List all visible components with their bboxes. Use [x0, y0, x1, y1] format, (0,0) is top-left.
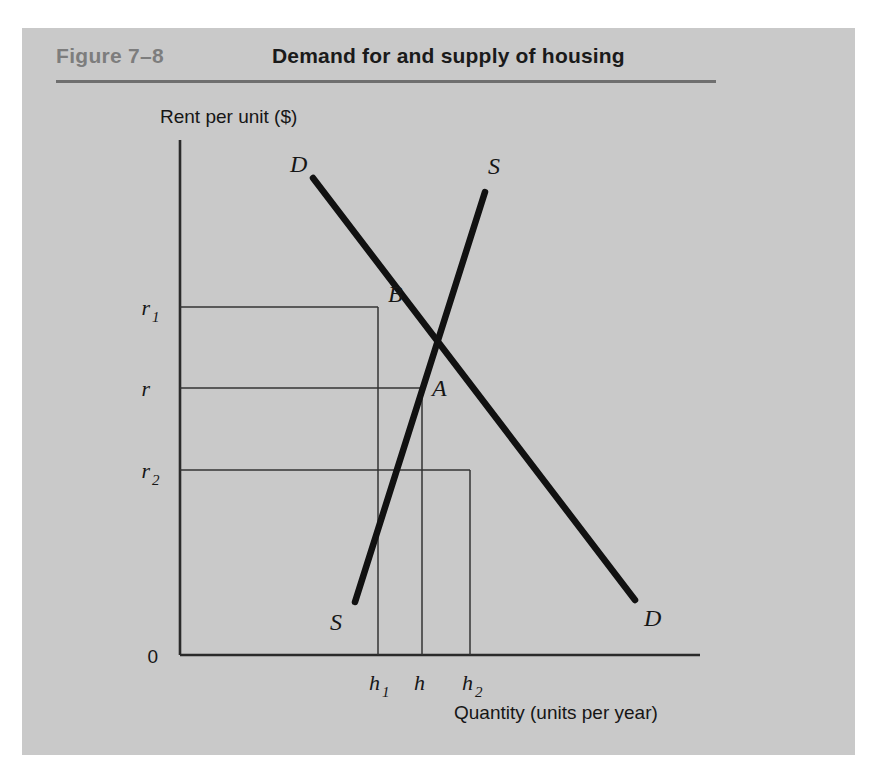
x-tick-h2-sub: 2 [475, 684, 483, 700]
y-tick-r1-sub: 1 [152, 309, 160, 325]
point-label-b: B [388, 281, 403, 307]
y-tick-label-r1: r 1 [141, 295, 159, 325]
y-tick-r-base: r [141, 376, 150, 401]
x-tick-h1-base: h [369, 670, 380, 695]
y-tick-label-r: r [141, 376, 150, 401]
supply-curve-label-top: S [488, 153, 500, 179]
demand-curve [313, 178, 635, 600]
y-axis-label: Rent per unit ($) [160, 106, 297, 127]
supply-curve-label-bottom: S [330, 609, 342, 635]
x-tick-h-base: h [414, 670, 425, 695]
x-tick-h2-base: h [462, 670, 473, 695]
point-label-a: A [430, 375, 447, 401]
demand-curve-label-top: D [289, 151, 307, 177]
y-tick-r2-sub: 2 [152, 472, 160, 488]
origin-label: 0 [147, 646, 158, 667]
x-tick-h1-sub: 1 [382, 684, 390, 700]
x-tick-label-h2: h 2 [462, 670, 483, 700]
y-tick-r1-base: r [141, 295, 150, 320]
figure-panel: Figure 7–8 Demand for and supply of hous… [22, 28, 855, 755]
y-tick-r2-base: r [141, 458, 150, 483]
x-tick-label-h: h [414, 670, 425, 695]
x-tick-label-h1: h 1 [369, 670, 390, 700]
y-tick-label-r2: r 2 [141, 458, 160, 488]
x-axis-label: Quantity (units per year) [454, 702, 658, 723]
chart-plot: Rent per unit ($) Quantity (units per ye… [22, 28, 855, 755]
figure-root: Figure 7–8 Demand for and supply of hous… [0, 0, 873, 783]
demand-curve-label-bottom: D [643, 605, 661, 631]
